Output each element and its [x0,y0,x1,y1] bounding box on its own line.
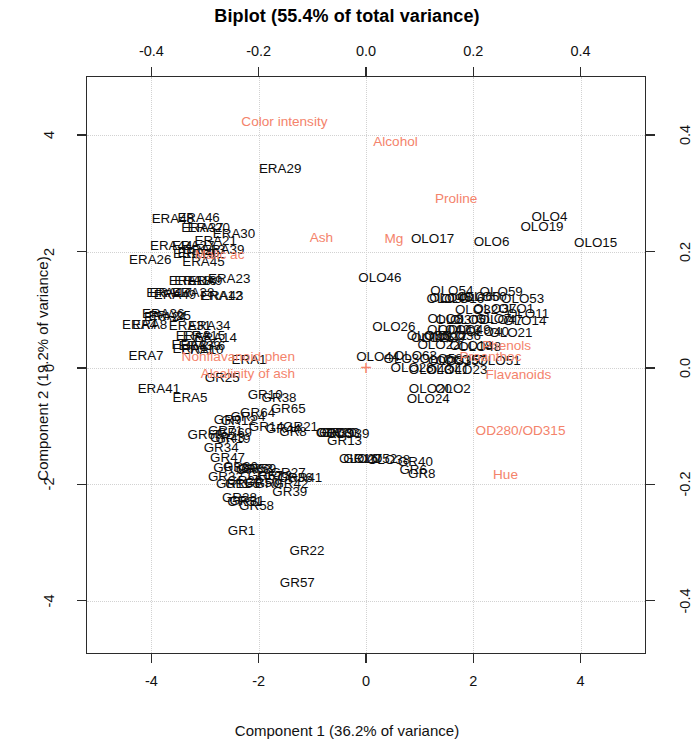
origin-marker: + [360,358,372,378]
grid-line-horizontal [87,135,645,136]
variable-label: Alcohol [373,135,418,149]
variable-label: Alcalinity of ash [201,368,295,382]
biplot-figure: Biplot (55.4% of total variance) Compone… [0,0,694,753]
y-axis-tick [77,367,86,369]
variable-label: Mg [384,232,403,246]
data-point-label: OLO52 [354,452,397,465]
data-point-label: OLO17 [411,232,454,245]
data-point-label: OLO19 [520,220,563,233]
x-axis-tick-label: 4 [577,673,585,689]
data-point-label: OLO24 [407,393,450,406]
x2-axis-tick [151,67,153,76]
y-axis-tick-label: -4 [41,594,57,607]
x2-axis-tick [473,67,475,76]
x-axis-tick [365,654,367,663]
y2-axis-tick-label: 0.0 [677,358,693,378]
variable-label: Ash [310,231,333,245]
grid-line-horizontal [87,601,645,602]
x2-axis-tick [365,67,367,76]
x2-axis-tick-label: 0.0 [356,43,376,59]
plot-panel: -4-2024-0.4-0.20.00.20.4-4-20240.40.20.0… [86,76,646,654]
data-point-label: OLO6 [474,236,510,249]
x-axis-tick [580,654,582,663]
variable-label: Proline [435,192,477,206]
grid-line-vertical [581,77,582,653]
y-axis-tick [77,134,86,136]
data-point-label: OLO33 [317,426,360,439]
x2-axis-tick-label: 0.4 [571,43,591,59]
y2-axis-tick [646,367,655,369]
data-point-label: ERA4 [122,318,157,331]
data-point-label: GR22 [289,544,324,557]
data-point-label: ERA29 [259,162,301,175]
variable-label: Malic ac [195,248,245,262]
variable-label: Hue [493,468,518,482]
data-point-label: OLO15 [574,237,617,250]
data-point-label: GR39 [272,486,307,499]
x-axis-tick [258,654,260,663]
y2-axis-tick [646,251,655,253]
data-point-label: ERA26 [129,253,171,266]
y-axis-tick [77,600,86,602]
data-point-label: GR58 [239,500,274,513]
x2-axis-tick-label: -0.2 [246,43,271,59]
data-point-label: ERA17 [149,286,191,299]
x2-axis-tick-label: 0.2 [463,43,483,59]
x-axis-tick-label: 0 [362,673,370,689]
data-point-label: GR65 [271,402,306,415]
x-axis-tick-label: -2 [252,673,265,689]
x-axis-tick-label: -4 [145,673,158,689]
x2-axis-tick [580,67,582,76]
y-axis-tick [77,484,86,486]
data-point-label: GR55 [225,477,260,490]
variable-label: Color intensity [241,116,327,130]
x-axis-tick [473,654,475,663]
y2-axis-tick [646,600,655,602]
y2-axis-tick [646,134,655,136]
data-point-label: ERA5 [173,391,208,404]
y2-axis-tick-label: 0.4 [677,125,693,145]
y-axis-tick-label: -2 [41,478,57,491]
data-point-label: ERA7 [129,350,164,363]
x-axis-tick-label: 2 [469,673,477,689]
y-axis-tick-label: 4 [41,131,57,139]
data-point-label: GR57 [280,576,315,589]
x-axis-tick [151,654,153,663]
chart-title: Biplot (55.4% of total variance) [0,6,694,27]
data-point-label: OLO46 [358,272,401,285]
data-point-label: OLO43 [409,364,452,377]
data-point-label: ERA43 [201,289,243,302]
y2-axis-tick-label: 0.2 [677,241,693,261]
y2-axis-tick [646,484,655,486]
data-point-label: GR8 [279,425,307,438]
grid-line-vertical [151,77,152,653]
variable-label: OD280/OD315 [476,424,566,438]
x2-axis-tick-label: -0.4 [139,43,164,59]
y2-axis-tick-label: -0.2 [677,472,693,497]
x-axis-label: Component 1 (36.2% of variance) [0,722,694,739]
data-point-label: GR1 [228,524,256,537]
variable-label: Proanthoc [459,351,521,365]
y2-axis-tick-label: -0.4 [677,588,693,613]
y-axis-tick [77,251,86,253]
y-axis-tick-label: 0 [41,364,57,372]
grid-line-horizontal [87,484,645,485]
variable-label: Nonflavanoid phen [182,351,295,365]
y-axis-tick-label: 2 [41,247,57,255]
variable-label: Flavanoids [486,368,552,382]
x2-axis-tick [258,67,260,76]
